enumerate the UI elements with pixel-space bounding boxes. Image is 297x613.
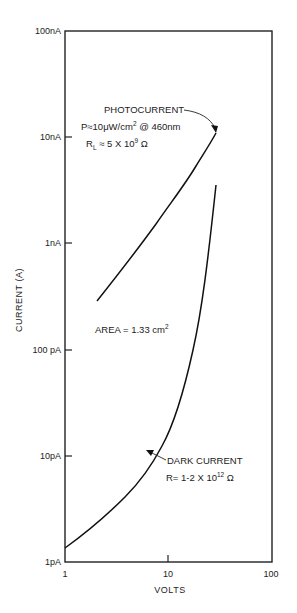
photocurrent-arrowhead-icon xyxy=(211,125,218,133)
y-tick-label-10pA: 10pA xyxy=(40,451,61,461)
photocurrent-load-resistance-label: RL ≈ 5 X 109 Ω xyxy=(86,137,148,151)
photocurrent-power-label: P≈10μW/cm2 @ 460nm xyxy=(81,120,181,132)
photocurrent-curve xyxy=(97,133,216,301)
x-tick-label-10: 10 xyxy=(163,569,173,579)
y-tick-label-1nA: 1nA xyxy=(45,238,61,248)
photocurrent-label: PHOTOCURRENT xyxy=(104,104,184,115)
dark-current-curve xyxy=(65,185,216,548)
photocurrent-leader-line xyxy=(184,110,215,128)
x-tick-label-100: 100 xyxy=(263,569,278,579)
x-tick-label-1: 1 xyxy=(62,569,67,579)
y-axis-title: CURRENT (A) xyxy=(14,268,24,332)
dark-current-label: DARK CURRENT xyxy=(167,455,243,466)
y-ticks xyxy=(65,137,72,456)
x-axis-title: VOLTS xyxy=(154,585,185,595)
y-tick-label-100nA: 100nA xyxy=(35,26,61,36)
y-tick-label-1pA: 1pA xyxy=(45,557,61,567)
y-tick-label-10nA: 10nA xyxy=(40,132,61,142)
dark-current-resistance-label: R= 1-2 X 1012 Ω xyxy=(166,471,234,483)
iv-curve-chart: 100nA 10nA 1nA 100 pA 10pA 1pA 1 10 100 … xyxy=(0,0,297,613)
area-label: AREA = 1.33 cm2 xyxy=(95,323,169,335)
y-tick-label-100pA: 100 pA xyxy=(32,345,61,355)
